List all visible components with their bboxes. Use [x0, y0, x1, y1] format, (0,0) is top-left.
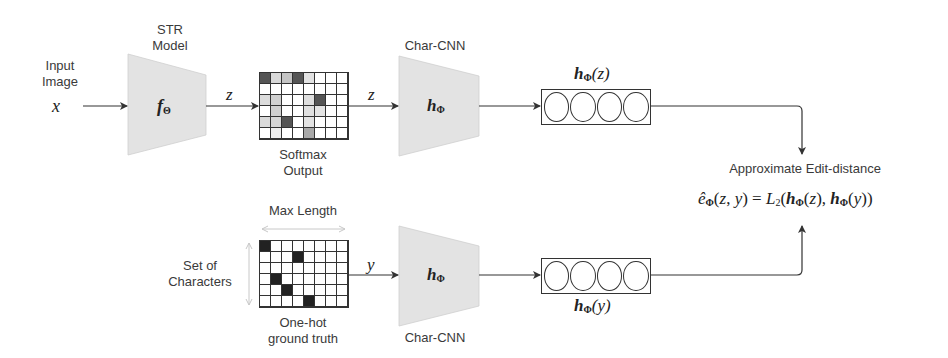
one-hot-cell [337, 274, 348, 285]
set-of-characters-label: Set of Characters [165, 258, 235, 290]
softmax-output-grid [259, 72, 349, 140]
embedding-unit-circle [597, 261, 623, 291]
max-length-label: Max Length [258, 203, 348, 219]
softmax-cell [337, 128, 348, 139]
one-hot-cell [304, 241, 315, 252]
one-hot-cell [326, 241, 337, 252]
softmax-cell [282, 95, 293, 106]
softmax-cell [260, 117, 271, 128]
one-hot-cell [293, 296, 304, 307]
char-cnn-top-symbol: hΦ [427, 97, 445, 119]
embedding-y-vector [541, 258, 651, 294]
one-hot-cell [315, 241, 326, 252]
softmax-cell [282, 117, 293, 128]
one-hot-active-cell [293, 252, 304, 263]
arrow-embedding-z-to-distance [650, 106, 802, 154]
softmax-cell [315, 106, 326, 117]
char-cnn-top-title: Char-CNN [400, 38, 470, 54]
softmax-cell [337, 84, 348, 95]
softmax-cell [304, 117, 315, 128]
one-hot-cell [315, 263, 326, 274]
softmax-cell [271, 84, 282, 95]
softmax-cell [293, 73, 304, 84]
one-hot-cell [271, 241, 282, 252]
embedding-unit-circle [570, 261, 596, 291]
one-hot-cell [337, 252, 348, 263]
softmax-cell [337, 106, 348, 117]
one-hot-cell [271, 285, 282, 296]
str-model-title: STR Model [140, 22, 200, 54]
one-hot-cell [282, 296, 293, 307]
one-hot-cell [282, 252, 293, 263]
arrow-embedding-y-to-distance [650, 226, 802, 275]
edit-distance-formula: êΦ(z, y) = L2(hΦ(z), hΦ(y)) [698, 190, 873, 212]
embedding-z-label: hΦ(z) [574, 65, 610, 87]
char-cnn-bottom-title: Char-CNN [400, 330, 470, 346]
one-hot-cell [326, 263, 337, 274]
embedding-unit-circle [623, 261, 649, 291]
one-hot-cell [293, 263, 304, 274]
embedding-unit-circle [544, 261, 570, 291]
one-hot-cell [315, 285, 326, 296]
one-hot-active-cell [260, 241, 271, 252]
one-hot-active-cell [271, 274, 282, 285]
one-hot-cell [282, 274, 293, 285]
one-hot-cell [326, 252, 337, 263]
softmax-cell [282, 73, 293, 84]
one-hot-cell [260, 285, 271, 296]
softmax-cell [293, 117, 304, 128]
str-model-symbol: fΘ [157, 97, 171, 120]
embedding-unit-circle [623, 92, 649, 122]
softmax-cell [293, 84, 304, 95]
softmax-cell [282, 106, 293, 117]
one-hot-cell [293, 285, 304, 296]
one-hot-cell [282, 241, 293, 252]
softmax-cell [326, 84, 337, 95]
softmax-cell [282, 84, 293, 95]
one-hot-cell [337, 263, 348, 274]
diagram: Input Image x STR Model fΘ z z Softmax O… [0, 0, 948, 358]
one-hot-cell [326, 274, 337, 285]
softmax-cell [337, 73, 348, 84]
embedding-z-vector [541, 89, 651, 125]
one-hot-cell [315, 296, 326, 307]
one-hot-cell [304, 274, 315, 285]
one-hot-cell [271, 263, 282, 274]
softmax-cell [271, 95, 282, 106]
softmax-cell [260, 73, 271, 84]
softmax-cell [260, 84, 271, 95]
softmax-cell [271, 117, 282, 128]
one-hot-cell [304, 263, 315, 274]
input-symbol-x: x [52, 97, 60, 115]
embedding-unit-circle [544, 92, 570, 122]
approx-edit-distance-title: Approximate Edit-distance [700, 161, 910, 177]
softmax-cell [271, 106, 282, 117]
embedding-unit-circle [597, 92, 623, 122]
softmax-cell [304, 84, 315, 95]
softmax-cell [315, 128, 326, 139]
embedding-unit-circle [570, 92, 596, 122]
softmax-cell [337, 95, 348, 106]
one-hot-cell [326, 285, 337, 296]
edge-label-y: y [367, 256, 375, 274]
embedding-y-label: hΦ(y) [574, 297, 611, 319]
one-hot-cell [337, 285, 348, 296]
softmax-cell [304, 95, 315, 106]
one-hot-label: One-hot ground truth [258, 315, 348, 347]
softmax-output-label: Softmax Output [273, 147, 333, 179]
softmax-cell [315, 117, 326, 128]
one-hot-cell [337, 241, 348, 252]
softmax-cell [260, 95, 271, 106]
one-hot-active-cell [304, 296, 315, 307]
one-hot-cell [337, 296, 348, 307]
softmax-cell [337, 117, 348, 128]
softmax-cell [315, 84, 326, 95]
softmax-cell [326, 95, 337, 106]
one-hot-cell [282, 263, 293, 274]
softmax-cell [293, 106, 304, 117]
softmax-cell [293, 128, 304, 139]
one-hot-cell [293, 274, 304, 285]
input-image-label: Input Image [40, 58, 80, 90]
edge-label-z2: z [368, 86, 375, 104]
softmax-cell [304, 106, 315, 117]
